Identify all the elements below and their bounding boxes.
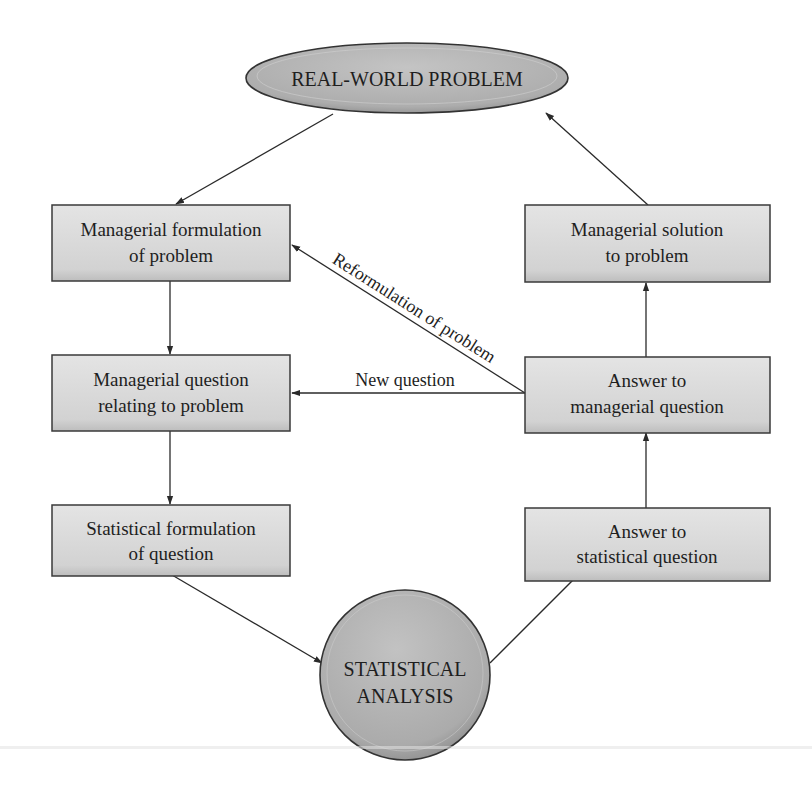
box-managerial-question: Managerial question relating to problem — [52, 355, 290, 431]
arrow-problem-to-formulation — [176, 114, 333, 204]
edge-label-new-question: New question — [355, 370, 454, 390]
arrow-solution-to-problem — [546, 113, 648, 205]
box-line2: relating to problem — [98, 395, 244, 416]
box-line1: Statistical formulation — [86, 518, 256, 539]
box-answer-managerial: Answer to managerial question — [525, 357, 770, 433]
edge-label-reformulation: Reformulation of problem — [329, 249, 499, 367]
box-line1: Answer to — [608, 370, 687, 391]
flow-diagram: New question Reformulation of problem RE… — [0, 0, 812, 788]
box-answer-statistical: Answer to statistical question — [525, 508, 770, 581]
real-world-problem-node: REAL-WORLD PROBLEM — [246, 43, 568, 113]
box-line2: of problem — [129, 245, 213, 266]
box-line1: Managerial formulation — [81, 219, 262, 240]
box-line2: managerial question — [570, 396, 724, 417]
arrow-statistical-to-analysis — [172, 575, 322, 663]
box-statistical-formulation: Statistical formulation of question — [52, 505, 290, 576]
box-managerial-solution: Managerial solution to problem — [525, 205, 770, 282]
real-world-problem-label: REAL-WORLD PROBLEM — [291, 68, 523, 90]
box-line2: of question — [129, 543, 214, 564]
statistical-analysis-node: STATISTICAL ANALYSIS — [320, 590, 490, 760]
box-line1: Managerial solution — [571, 219, 724, 240]
statistical-analysis-line2: ANALYSIS — [357, 685, 454, 707]
box-line1: Managerial question — [93, 369, 249, 390]
box-managerial-formulation: Managerial formulation of problem — [52, 205, 290, 281]
box-line1: Answer to — [608, 521, 687, 542]
scan-artifact-line — [0, 746, 812, 749]
statistical-analysis-line1: STATISTICAL — [344, 658, 467, 680]
box-line2: statistical question — [577, 546, 718, 567]
box-line2: to problem — [606, 245, 689, 266]
